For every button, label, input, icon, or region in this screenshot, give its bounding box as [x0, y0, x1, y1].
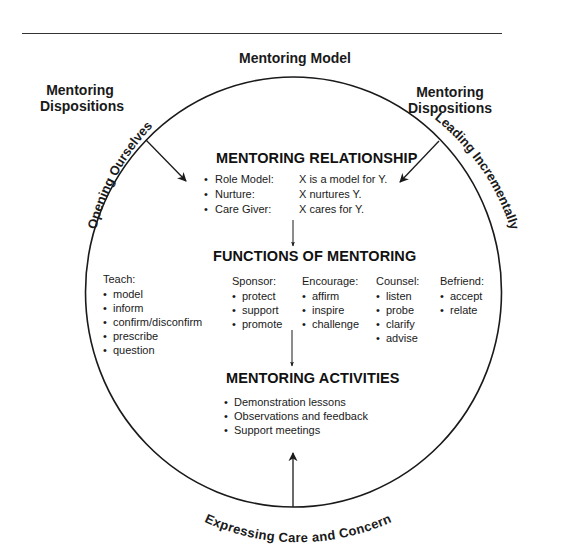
function-item: listen	[376, 289, 419, 303]
function-item: affirm	[302, 289, 359, 303]
relationship-desc: X nurtures Y.	[299, 187, 362, 202]
function-column-befriend: Befriend: accept relate	[440, 274, 484, 317]
arc-label-leading-incrementally: Leading Incrementally	[432, 110, 522, 233]
activities-heading: MENTORING ACTIVITIES	[226, 370, 400, 386]
arc-label-opening-ourselves: Opening Ourselves	[84, 118, 155, 230]
relationship-desc: X is a model for Y.	[299, 172, 387, 187]
arrow-opening-ourselves	[146, 140, 186, 181]
function-head: Counsel:	[376, 274, 419, 288]
activities-list: Demonstration lessons Observations and f…	[224, 395, 368, 437]
function-item: prescribe	[103, 329, 202, 343]
function-item: promote	[232, 317, 282, 331]
function-item: inform	[103, 301, 202, 315]
functions-heading: FUNCTIONS OF MENTORING	[213, 248, 416, 264]
arc-label-expressing-care: Expressing Care and Concern	[203, 511, 393, 546]
bullet: •	[204, 187, 215, 202]
dispositions-right-label: Mentoring Dispositions	[400, 84, 500, 116]
relationship-desc: X cares for Y.	[299, 202, 364, 217]
function-item: question	[103, 343, 202, 357]
relationship-row: • Care Giver: X cares for Y.	[204, 202, 387, 217]
function-head: Teach:	[103, 272, 202, 286]
relationship-row: • Nurture: X nurtures Y.	[204, 187, 387, 202]
function-head: Sponsor:	[232, 274, 282, 288]
function-item: challenge	[302, 317, 359, 331]
relationship-list: • Role Model: X is a model for Y. • Nurt…	[204, 172, 387, 217]
function-item: clarify	[376, 317, 419, 331]
function-item: model	[103, 287, 202, 301]
function-item: support	[232, 303, 282, 317]
function-head: Encourage:	[302, 274, 359, 288]
relationship-row: • Role Model: X is a model for Y.	[204, 172, 387, 187]
function-column-sponsor: Sponsor: protect support promote	[232, 274, 282, 331]
function-item: relate	[440, 303, 484, 317]
function-item: accept	[440, 289, 484, 303]
function-column-encourage: Encourage: affirm inspire challenge	[302, 274, 359, 331]
function-item: probe	[376, 303, 419, 317]
bullet: •	[204, 202, 215, 217]
relationship-heading: MENTORING RELATIONSHIP	[216, 150, 417, 166]
function-head: Befriend:	[440, 274, 484, 288]
function-item: inspire	[302, 303, 359, 317]
function-column-counsel: Counsel: listen probe clarify advise	[376, 274, 419, 345]
function-column-teach: Teach: model inform confirm/disconfirm p…	[103, 272, 202, 357]
dispositions-left-label: Mentoring Dispositions	[40, 82, 120, 114]
relationship-term: Role Model:	[215, 172, 299, 187]
diagram-title: Mentoring Model	[220, 50, 370, 66]
relationship-term: Nurture:	[215, 187, 299, 202]
bullet: •	[204, 172, 215, 187]
activity-item: Support meetings	[224, 423, 368, 437]
function-item: advise	[376, 331, 419, 345]
activity-item: Demonstration lessons	[224, 395, 368, 409]
activity-item: Observations and feedback	[224, 409, 368, 423]
relationship-term: Care Giver:	[215, 202, 299, 217]
mentoring-model-diagram: Opening Ourselves Leading Incrementally …	[0, 0, 580, 554]
function-item: protect	[232, 289, 282, 303]
function-item: confirm/disconfirm	[103, 315, 202, 329]
